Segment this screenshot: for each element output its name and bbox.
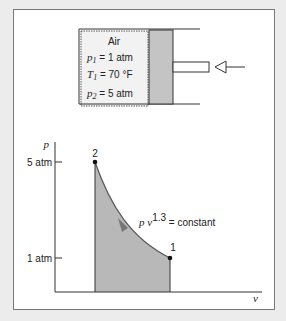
state-2-point	[93, 160, 98, 165]
piston-rod	[173, 62, 209, 72]
process-annotation: p v1.3 = constant	[138, 212, 215, 228]
point-1-label: 1	[170, 242, 176, 253]
gas-label: Air	[108, 36, 121, 47]
force-arrow-icon	[215, 61, 226, 73]
y-axis-label: p	[43, 138, 50, 150]
diagram: Air p1 = 1 atm T1 = 70 °F p2 = 5 atm p 5…	[0, 0, 286, 321]
state-1-point	[168, 256, 173, 261]
work-area	[95, 162, 170, 292]
x-axis-label: v	[253, 292, 258, 304]
piston	[149, 30, 173, 104]
y-tick-1atm: 1 atm	[27, 253, 52, 264]
y-tick-5atm: 5 atm	[27, 157, 52, 168]
point-2-label: 2	[92, 148, 98, 159]
